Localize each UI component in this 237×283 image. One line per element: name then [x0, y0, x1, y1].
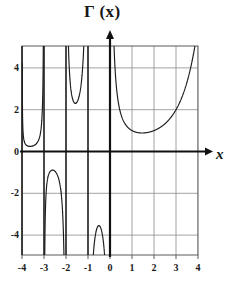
x-tick-label: 3	[167, 262, 185, 273]
x-tick-label: -3	[35, 262, 53, 273]
plot-canvas	[0, 0, 237, 283]
x-tick-label: 2	[145, 262, 163, 273]
x-tick-label: 0	[101, 262, 119, 273]
y-tick-label: 0	[4, 146, 19, 157]
y-axis-title: Γ (x)	[84, 2, 121, 22]
y-tick-label: 4	[4, 62, 19, 73]
x-tick-label: -1	[79, 262, 97, 273]
y-tick-label: -4	[4, 229, 19, 240]
x-tick-label: -2	[57, 262, 75, 273]
coordinate-axes	[20, 30, 213, 257]
x-axis-title: x	[216, 146, 224, 163]
x-tick-label: 1	[123, 262, 141, 273]
x-tick-label: 4	[189, 262, 207, 273]
x-tick-label: -4	[13, 262, 31, 273]
gamma-function-figure: Γ (x) x -4-3-2-101234 420-2-4	[0, 0, 237, 283]
y-tick-label: -2	[4, 187, 19, 198]
y-tick-label: 2	[4, 104, 19, 115]
